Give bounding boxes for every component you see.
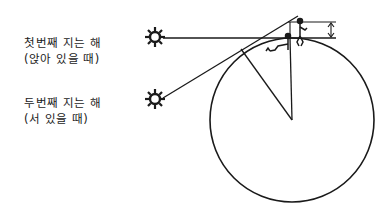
sun-icon: [145, 27, 165, 47]
sitting-person-icon: [266, 34, 291, 52]
radius-to-observer: [290, 38, 292, 120]
double-arrow-icon: [328, 23, 334, 37]
standing-sightline: [163, 16, 298, 98]
radius-to-tangent-point: [241, 49, 292, 120]
earth-sunset-diagram: [0, 0, 389, 214]
sun-icon: [145, 89, 165, 109]
standing-person-icon: [297, 19, 307, 47]
